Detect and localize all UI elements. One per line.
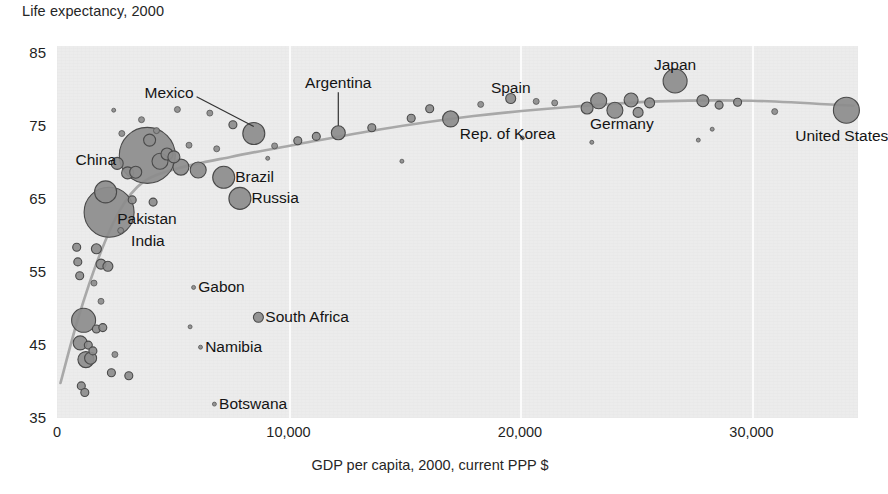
bubble-marker <box>645 98 655 108</box>
bubble-marker <box>552 100 558 106</box>
bubble-marker <box>266 156 270 160</box>
country-label-gabon: Gabon <box>198 280 245 296</box>
bubble-marker <box>697 95 709 107</box>
bubble-marker <box>188 325 192 329</box>
bubble-marker <box>212 402 216 406</box>
bubble-marker <box>95 181 117 203</box>
country-label-spain: Spain <box>491 80 531 96</box>
bubble-marker <box>833 97 859 123</box>
bubble-marker <box>199 345 203 349</box>
country-label-united-states: United States <box>795 129 888 145</box>
bubble-marker <box>130 166 142 178</box>
bubble-marker <box>112 108 116 112</box>
bubble-marker <box>128 196 136 204</box>
country-label-germany: Germany <box>590 116 654 132</box>
bubble-marker <box>190 162 206 178</box>
bubble-marker <box>74 258 82 266</box>
country-label-india: India <box>131 234 165 250</box>
bubble-marker <box>207 110 213 116</box>
bubble-marker <box>715 101 723 109</box>
country-label-pakistan: Pakistan <box>117 211 176 227</box>
bubble-marker <box>149 198 157 206</box>
leader-line <box>197 97 254 127</box>
y-tick-85: 85 <box>2 44 46 61</box>
bubble-marker <box>229 187 251 209</box>
y-tick-45: 45 <box>2 336 46 353</box>
country-label-china: China <box>76 152 117 168</box>
bubble-marker <box>81 389 89 397</box>
bubble-marker <box>91 244 101 254</box>
bubble-marker <box>103 261 113 271</box>
y-tick-65: 65 <box>2 190 46 207</box>
bubble-marker <box>443 111 459 127</box>
bubble-marker <box>107 369 115 377</box>
bubble-marker <box>73 243 81 251</box>
bubble-marker <box>213 166 235 188</box>
country-label-mexico: Mexico <box>144 85 193 101</box>
bubble-marker <box>144 134 156 146</box>
bubble-marker <box>112 352 118 358</box>
bubble-marker <box>331 126 345 140</box>
x-tick-30000: 30,000 <box>729 424 773 440</box>
bubble-marker <box>89 347 97 355</box>
bubble-marker <box>624 93 638 107</box>
x-tick-20000: 20,000 <box>498 424 542 440</box>
country-label-japan: Japan <box>654 57 696 73</box>
bubble-marker <box>186 142 192 148</box>
country-label-namibia: Namibia <box>205 339 262 355</box>
bubble-marker <box>76 272 84 280</box>
y-tick-35: 35 <box>2 409 46 426</box>
bubble-marker <box>118 228 124 234</box>
country-label-brazil: Brazil <box>235 170 274 186</box>
bubble-marker <box>478 101 484 107</box>
country-label-russia: Russia <box>251 191 298 207</box>
bubble-marker <box>426 105 434 113</box>
trend-line <box>61 100 854 383</box>
x-tick-0: 0 <box>53 424 61 440</box>
bubble-marker <box>734 98 742 106</box>
country-label-rep-of-korea: Rep. of Korea <box>460 127 556 143</box>
country-label-south-africa: South Africa <box>265 310 349 326</box>
bubble-marker <box>400 159 404 163</box>
bubble-marker <box>710 127 714 131</box>
bubble-marker <box>590 140 594 144</box>
y-tick-75: 75 <box>2 117 46 134</box>
bubble-marker <box>581 102 593 114</box>
bubble-marker <box>229 121 237 129</box>
bubble-marker <box>214 146 220 152</box>
country-label-argentina: Argentina <box>305 75 371 91</box>
bubble-marker <box>533 98 539 104</box>
bubble-marker <box>294 137 302 145</box>
bubble-marker <box>99 324 107 332</box>
bubble-marker <box>174 107 180 113</box>
bubble-marker <box>139 117 145 123</box>
bubble-marker <box>119 131 125 137</box>
bubble-marker <box>368 124 376 132</box>
bubble-marker <box>168 151 180 163</box>
bubble-marker <box>772 109 778 115</box>
leader-lines <box>197 92 339 126</box>
bubble-marker <box>312 132 320 140</box>
bubble-marker <box>98 298 104 304</box>
bubble-marker <box>192 285 196 289</box>
bubble-marker <box>243 123 265 145</box>
x-axis-label: GDP per capita, 2000, current PPP $ <box>0 457 860 473</box>
x-tick-10000: 10,000 <box>266 424 310 440</box>
bubble-marker <box>272 143 278 149</box>
bubble-marker <box>696 138 700 142</box>
country-label-botswana: Botswana <box>219 396 287 412</box>
bubble-marker <box>253 312 263 322</box>
bubble-marker <box>407 114 415 122</box>
bubble-marker <box>125 372 133 380</box>
bubble-marker <box>154 128 160 134</box>
bubble-markers <box>72 69 860 406</box>
y-tick-55: 55 <box>2 263 46 280</box>
bubble-marker <box>91 280 97 286</box>
